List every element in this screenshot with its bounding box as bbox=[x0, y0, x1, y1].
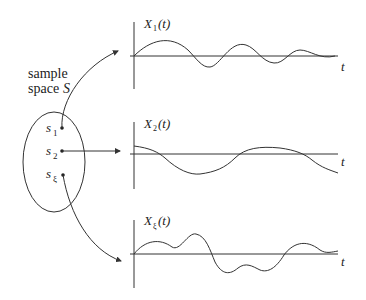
svg-text:2: 2 bbox=[153, 124, 157, 133]
svg-text:(t): (t) bbox=[158, 213, 170, 228]
svg-text:t: t bbox=[341, 154, 345, 169]
random-process-diagram: sample space S s 1 s 2 s ξ X 1 (t) t X 2… bbox=[0, 0, 366, 300]
point-sxi: s ξ bbox=[46, 166, 65, 184]
set-symbol: S bbox=[63, 81, 70, 96]
sample-space-ellipse bbox=[23, 112, 85, 212]
svg-text:2: 2 bbox=[53, 151, 58, 161]
svg-text:s: s bbox=[46, 166, 51, 181]
svg-text:X: X bbox=[143, 213, 153, 228]
arrow-sxi bbox=[63, 175, 121, 261]
svg-text:s: s bbox=[46, 120, 51, 135]
plot-xxi: X ξ (t) t bbox=[130, 213, 345, 288]
svg-text:(t): (t) bbox=[158, 16, 170, 31]
svg-text:(t): (t) bbox=[158, 116, 170, 131]
point-s2: s 2 bbox=[46, 143, 64, 161]
svg-text:X: X bbox=[143, 16, 153, 31]
plot-x2: X 2 (t) t bbox=[130, 116, 345, 189]
svg-text:1: 1 bbox=[53, 128, 58, 138]
plot-x1: X 1 (t) t bbox=[130, 16, 345, 89]
svg-text:ξ: ξ bbox=[153, 222, 157, 231]
point-s1: s 1 bbox=[46, 120, 64, 138]
svg-text:s: s bbox=[46, 143, 51, 158]
space-label: space bbox=[28, 81, 59, 96]
arrow-s1 bbox=[62, 51, 118, 128]
svg-text:t: t bbox=[341, 59, 345, 74]
svg-text:X: X bbox=[143, 116, 153, 131]
svg-text:t: t bbox=[341, 254, 345, 269]
sample-label: sample bbox=[28, 66, 68, 81]
svg-text:ξ: ξ bbox=[53, 174, 57, 184]
svg-text:1: 1 bbox=[153, 24, 157, 33]
